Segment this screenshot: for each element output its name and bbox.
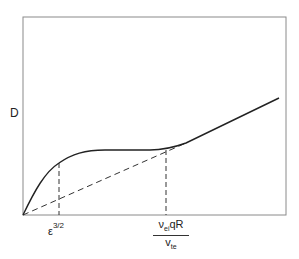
fraction-numerator: νeiqR (153, 218, 189, 236)
epsilon-exponent: 3/2 (53, 221, 64, 230)
diffusion-curve (23, 98, 279, 215)
x-tick-collisionality: νeiqR vte (153, 218, 189, 253)
dashed-asymptote (23, 143, 186, 215)
numerator-rest: qR (169, 218, 183, 230)
plot-frame (23, 17, 286, 215)
v-subscript: te (171, 243, 177, 250)
y-axis-label: D (10, 106, 19, 120)
x-tick-epsilon: ε3/2 (48, 223, 64, 237)
fraction-denominator: vte (153, 236, 189, 253)
diagram-canvas (0, 0, 299, 259)
